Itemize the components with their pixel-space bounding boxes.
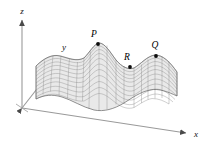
x-axis	[22, 108, 186, 133]
x-axis-label: x	[193, 129, 198, 139]
point-Q-dot	[154, 54, 158, 58]
point-P-label: P	[90, 29, 97, 39]
z-axis-label: z	[19, 6, 24, 16]
surface-plot-svg: P R Q z y x	[0, 0, 204, 148]
point-R-dot	[128, 65, 132, 69]
surface-fill	[36, 43, 177, 111]
surface-mesh	[36, 43, 177, 111]
point-R-label: R	[123, 52, 130, 62]
point-Q-label: Q	[152, 40, 159, 50]
y-axis-label: y	[61, 42, 66, 52]
surface-plot-figure: P R Q z y x	[0, 0, 204, 148]
point-P-dot	[96, 42, 100, 46]
